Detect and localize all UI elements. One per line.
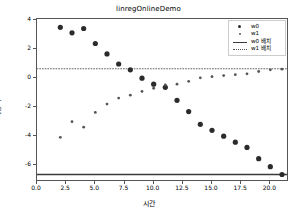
- data-point: [129, 94, 132, 97]
- legend-item: w0: [232, 23, 282, 31]
- data-point: [164, 83, 167, 86]
- chart-figure: linregOnlineDemo 420-2-4-6 0.02.55.07.51…: [0, 0, 297, 217]
- x-axis-label: 시간: [0, 198, 297, 208]
- legend-label: w0 배치: [248, 39, 271, 45]
- data-point: [104, 51, 109, 56]
- legend-label: w1 배치: [248, 46, 271, 52]
- chart-title: linregOnlineDemo: [0, 5, 297, 13]
- y-tick-mark: [33, 164, 36, 165]
- data-point: [256, 156, 261, 161]
- y-tick-label: -4: [5, 132, 31, 138]
- data-point: [59, 136, 62, 139]
- legend-marker-icon: [232, 23, 248, 30]
- data-point: [222, 74, 225, 77]
- data-point: [139, 76, 144, 81]
- y-tick-mark: [33, 135, 36, 136]
- data-point: [187, 80, 190, 83]
- data-point: [152, 87, 155, 90]
- legend-item: w1 배치: [232, 46, 282, 54]
- data-point: [199, 76, 202, 79]
- x-tick-label: 20.0: [254, 185, 284, 191]
- data-point: [71, 120, 74, 123]
- legend-marker-icon: [232, 31, 248, 38]
- data-point: [244, 145, 249, 150]
- y-tick-label: -2: [5, 103, 31, 109]
- y-tick-mark: [33, 77, 36, 78]
- data-point: [279, 172, 284, 177]
- legend-glyph: [233, 42, 247, 43]
- x-tick-label: 7.5: [109, 185, 139, 191]
- chart-legend: w0w1w0 배치w1 배치: [228, 20, 286, 56]
- y-tick-mark: [33, 106, 36, 107]
- y-tick-label: 0: [5, 74, 31, 80]
- legend-label: w0: [248, 24, 259, 30]
- legend-marker-icon: [232, 38, 248, 45]
- data-point: [151, 82, 156, 87]
- data-point: [116, 61, 121, 66]
- y-tick-label: 4: [5, 16, 31, 22]
- data-point: [81, 26, 86, 31]
- y-axis-label: 가중치: [0, 100, 2, 118]
- data-point: [198, 122, 203, 127]
- legend-glyph: [238, 25, 241, 28]
- y-tick-label: -6: [5, 161, 31, 167]
- data-point: [221, 134, 226, 139]
- x-tick-label: 0.0: [21, 185, 51, 191]
- data-point: [69, 30, 74, 35]
- data-point: [268, 164, 273, 169]
- data-point: [82, 126, 85, 129]
- data-point: [174, 98, 179, 103]
- data-point: [176, 83, 179, 86]
- data-point: [211, 75, 214, 78]
- x-tick-label: 15.0: [196, 185, 226, 191]
- data-point: [257, 70, 260, 73]
- data-point: [128, 67, 133, 72]
- data-point: [209, 128, 214, 133]
- legend-marker-icon: [232, 46, 248, 53]
- legend-glyph: [239, 33, 241, 35]
- data-point: [233, 140, 238, 145]
- legend-item: w1: [232, 31, 282, 39]
- legend-glyph: [233, 49, 247, 50]
- data-point: [94, 111, 97, 114]
- y-tick-mark: [33, 19, 36, 20]
- data-point: [141, 90, 144, 93]
- legend-label: w1: [248, 31, 259, 37]
- x-tick-label: 5.0: [79, 185, 109, 191]
- data-point: [246, 72, 249, 75]
- y-tick-label: 2: [5, 45, 31, 51]
- data-point: [58, 25, 63, 30]
- x-tick-label: 2.5: [50, 185, 80, 191]
- x-tick-label: 12.5: [167, 185, 197, 191]
- data-point: [269, 68, 272, 71]
- data-point: [186, 109, 191, 114]
- data-point: [93, 41, 98, 46]
- x-tick-label: 17.5: [225, 185, 255, 191]
- y-tick-mark: [33, 48, 36, 49]
- data-point: [117, 97, 120, 100]
- data-point: [106, 103, 109, 106]
- data-point: [234, 73, 237, 76]
- x-tick-label: 10.0: [138, 185, 168, 191]
- data-point: [281, 68, 284, 71]
